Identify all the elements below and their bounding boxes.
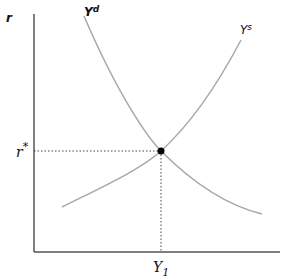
y-axis-label: r xyxy=(6,11,13,25)
yd-label: Yd xyxy=(84,4,100,19)
yd-curve xyxy=(84,16,262,214)
ys-label: Ys xyxy=(240,22,252,37)
y1-label: Y1 xyxy=(153,259,169,279)
is-lm-chart: r Yd Ys r* Y1 xyxy=(0,0,291,280)
ys-curve xyxy=(62,40,241,207)
equilibrium-point xyxy=(158,148,165,155)
r-star-label: r* xyxy=(16,140,29,160)
